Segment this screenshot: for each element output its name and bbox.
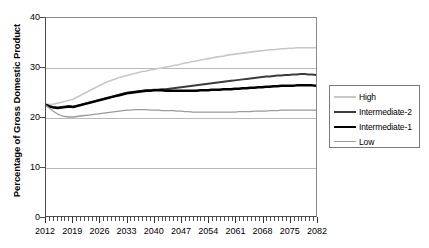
x-axis-minor-tick <box>138 217 139 221</box>
y-axis-tick-label: 30 <box>18 62 40 72</box>
x-axis-minor-tick <box>134 217 135 221</box>
x-axis-minor-tick <box>255 217 256 221</box>
legend-item: Low <box>330 134 419 149</box>
x-axis-minor-tick <box>173 217 174 221</box>
x-axis-minor-tick <box>146 217 147 221</box>
y-axis-tick-label: 20 <box>18 112 40 122</box>
x-axis-minor-tick <box>228 217 229 221</box>
x-axis-minor-tick <box>88 217 89 221</box>
x-axis-major-tick <box>263 217 264 223</box>
x-axis-minor-tick <box>162 217 163 221</box>
chart-figure: Percentage of Gross Domestic Product 010… <box>0 0 429 248</box>
x-axis-minor-tick <box>278 217 279 221</box>
series-lines <box>46 18 316 216</box>
x-axis-major-tick <box>154 217 155 223</box>
x-axis-major-tick <box>99 217 100 223</box>
x-axis-minor-tick <box>309 217 310 221</box>
x-axis-major-tick <box>290 217 291 223</box>
x-axis-minor-tick <box>80 217 81 221</box>
x-axis-minor-tick <box>274 217 275 221</box>
legend-label: Intermediate-2 <box>359 107 412 117</box>
x-axis-minor-tick <box>103 217 104 221</box>
legend-label: Intermediate-1 <box>359 122 412 132</box>
x-axis-minor-tick <box>224 217 225 221</box>
x-axis-minor-tick <box>115 217 116 221</box>
x-axis-minor-tick <box>158 217 159 221</box>
x-axis-minor-tick <box>197 217 198 221</box>
x-axis-minor-tick <box>57 217 58 221</box>
x-axis-minor-tick <box>247 217 248 221</box>
legend-label: Low <box>359 137 374 147</box>
x-axis-minor-tick <box>220 217 221 221</box>
x-axis-major-tick <box>181 217 182 223</box>
series-line <box>46 106 316 117</box>
x-axis-minor-tick <box>107 217 108 221</box>
x-axis-minor-tick <box>76 217 77 221</box>
chart-legend: HighIntermediate-2Intermediate-1Low <box>329 85 420 148</box>
x-axis-minor-tick <box>53 217 54 221</box>
legend-label: High <box>359 92 376 102</box>
legend-item: Intermediate-2 <box>330 104 419 119</box>
x-axis-minor-tick <box>49 217 50 221</box>
legend-line-swatch <box>334 96 356 98</box>
x-axis-minor-tick <box>193 217 194 221</box>
x-axis-minor-tick <box>204 217 205 221</box>
x-axis-minor-tick <box>68 217 69 221</box>
x-axis-minor-tick <box>123 217 124 221</box>
legend-line-swatch <box>334 141 356 142</box>
x-axis-minor-tick <box>185 217 186 221</box>
x-axis-minor-tick <box>177 217 178 221</box>
x-axis-major-tick <box>235 217 236 223</box>
x-axis-minor-tick <box>305 217 306 221</box>
x-axis-major-tick <box>127 217 128 223</box>
x-axis-minor-tick <box>96 217 97 221</box>
x-axis-minor-tick <box>142 217 143 221</box>
x-axis-minor-tick <box>119 217 120 221</box>
series-line <box>46 85 316 108</box>
x-axis-minor-tick <box>61 217 62 221</box>
y-axis-tick-label: 0 <box>18 212 40 222</box>
x-axis-minor-tick <box>243 217 244 221</box>
x-axis-major-tick <box>45 217 46 223</box>
legend-line-swatch <box>334 111 356 113</box>
x-axis-minor-tick <box>301 217 302 221</box>
x-axis-minor-tick <box>216 217 217 221</box>
x-axis-minor-tick <box>251 217 252 221</box>
plot-area <box>45 17 317 217</box>
x-axis-major-tick <box>72 217 73 223</box>
x-axis-minor-tick <box>150 217 151 221</box>
x-axis-minor-tick <box>189 217 190 221</box>
y-axis-title: Percentage of Gross Domestic Product <box>11 11 22 211</box>
x-axis-minor-tick <box>212 217 213 221</box>
x-axis-minor-tick <box>294 217 295 221</box>
x-axis-minor-tick <box>259 217 260 221</box>
x-axis-minor-tick <box>84 217 85 221</box>
x-axis-minor-tick <box>111 217 112 221</box>
x-axis-minor-tick <box>200 217 201 221</box>
x-axis-minor-tick <box>266 217 267 221</box>
legend-line-swatch <box>334 126 356 128</box>
x-axis-minor-tick <box>130 217 131 221</box>
x-axis-major-tick <box>317 217 318 223</box>
x-axis-tick-label: 2082 <box>297 226 337 236</box>
x-axis-minor-tick <box>286 217 287 221</box>
legend-item: Intermediate-1 <box>330 119 419 134</box>
x-axis-minor-tick <box>92 217 93 221</box>
x-axis-minor-tick <box>169 217 170 221</box>
y-axis-tick-label: 10 <box>18 162 40 172</box>
y-axis-tick-label: 40 <box>18 12 40 22</box>
x-axis-minor-tick <box>232 217 233 221</box>
legend-item: High <box>330 89 419 104</box>
x-axis-minor-tick <box>270 217 271 221</box>
x-axis-minor-tick <box>165 217 166 221</box>
x-axis-minor-tick <box>298 217 299 221</box>
x-axis-minor-tick <box>239 217 240 221</box>
x-axis-minor-tick <box>282 217 283 221</box>
x-axis-minor-tick <box>64 217 65 221</box>
x-axis-major-tick <box>208 217 209 223</box>
x-axis-minor-tick <box>313 217 314 221</box>
